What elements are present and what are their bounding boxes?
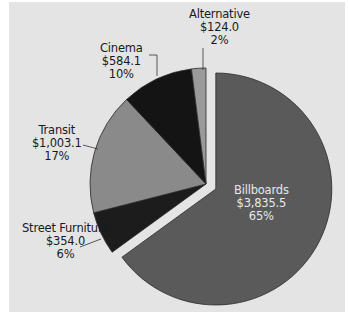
label-alternative-pct: 2%: [189, 34, 250, 47]
label-billboards: Billboards $3,835.5 65%: [234, 184, 289, 223]
label-cinema: Cinema $584.1 10%: [100, 42, 143, 81]
label-billboards-pct: 65%: [234, 210, 289, 223]
leader-cinema: [149, 55, 157, 76]
label-transit-pct: 17%: [32, 150, 82, 163]
label-cinema-pct: 10%: [100, 68, 143, 81]
label-transit: Transit $1,003.1 17%: [32, 124, 82, 163]
label-street-furniture-pct: 6%: [22, 248, 109, 261]
label-alternative: Alternative $124.0 2%: [189, 8, 250, 47]
label-street-furniture: Street Furniture $354.0 6%: [22, 222, 109, 261]
